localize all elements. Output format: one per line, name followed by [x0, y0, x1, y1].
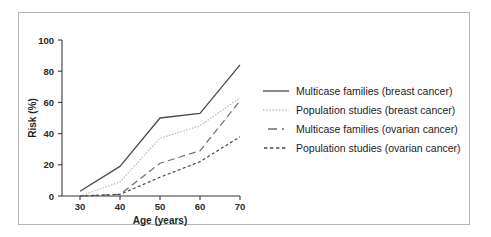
legend-label-multicase-ovarian: Multicase families (ovarian cancer) [296, 123, 458, 135]
x-tick-label-40: 40 [115, 201, 126, 212]
y-tick-label-80: 80 [43, 66, 54, 77]
legend-swatch-solid-icon [263, 86, 289, 96]
chart-plot-area: 100 80 60 40 20 0 Risk (%) 30 40 50 60 7… [19, 13, 279, 226]
series-line-multicase-breast [80, 65, 240, 191]
y-tick-label-0: 0 [49, 191, 54, 202]
y-tick-label-60: 60 [43, 97, 54, 108]
legend-item-multicase-breast: Multicase families (breast cancer) [263, 81, 468, 100]
legend-swatch-long-dash-icon [263, 124, 289, 134]
x-tick-label-30: 30 [75, 201, 86, 212]
legend-item-multicase-ovarian: Multicase families (ovarian cancer) [263, 119, 468, 138]
legend-item-population-ovarian: Population studies (ovarian cancer) [263, 138, 468, 157]
legend-label-multicase-breast: Multicase families (breast cancer) [296, 85, 452, 97]
x-axis: 30 40 50 60 70 Age (years) [62, 196, 245, 226]
legend-label-population-breast: Population studies (breast cancer) [296, 104, 455, 116]
chart-legend: Multicase families (breast cancer) Popul… [263, 81, 468, 157]
legend-swatch-dotted-icon [263, 105, 289, 115]
y-tick-label-40: 40 [43, 128, 54, 139]
legend-swatch-short-dash-icon [263, 143, 289, 153]
risk-by-age-line-chart: 100 80 60 40 20 0 Risk (%) 30 40 50 60 7… [19, 13, 279, 226]
x-tick-label-50: 50 [155, 201, 166, 212]
x-tick-label-70: 70 [235, 201, 246, 212]
series-line-population-breast [80, 98, 240, 196]
x-tick-label-60: 60 [195, 201, 206, 212]
legend-label-population-ovarian: Population studies (ovarian cancer) [296, 142, 461, 154]
y-tick-label-20: 20 [43, 159, 54, 170]
legend-item-population-breast: Population studies (breast cancer) [263, 100, 468, 119]
y-axis-title: Risk (%) [27, 98, 38, 137]
x-axis-title: Age (years) [133, 215, 187, 226]
y-axis: 100 80 60 40 20 0 Risk (%) [27, 35, 62, 202]
series-line-population-ovarian [80, 137, 240, 196]
figure-panel: 100 80 60 40 20 0 Risk (%) 30 40 50 60 7… [18, 12, 470, 225]
series-lines [80, 65, 240, 196]
y-tick-label-100: 100 [38, 35, 54, 46]
